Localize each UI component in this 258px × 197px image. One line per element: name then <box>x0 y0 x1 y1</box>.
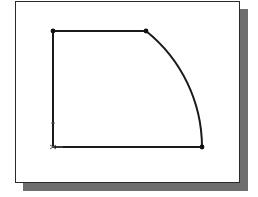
vertex-arc-start[interactable] <box>144 29 149 34</box>
vertex-bottom-right[interactable] <box>200 145 205 150</box>
origin-marker-icon <box>50 145 63 149</box>
sketch-canvas <box>0 0 258 197</box>
quarter-arc[interactable] <box>146 31 202 147</box>
vertex-top-left[interactable] <box>51 29 56 34</box>
